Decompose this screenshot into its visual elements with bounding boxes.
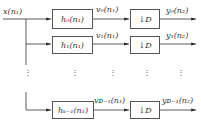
downsampler-1: ↓D	[130, 36, 160, 54]
signal-lines	[0, 0, 201, 134]
y1-label: y₁(n₂)	[166, 32, 188, 40]
y0-label: y₀(n₂)	[166, 7, 188, 15]
ellipsis-bus: ⋮	[24, 71, 28, 74]
downsampler-d: ↓D	[130, 101, 160, 119]
vd-label: vᴅ₋₁(n₁)	[94, 97, 125, 105]
ellipsis-downsamplers: ⋮	[143, 71, 147, 74]
filter-hk-block: hₖ₋₁(n₁)	[52, 101, 94, 119]
v0-label: v₀(n₁)	[96, 6, 118, 14]
filter-h1-block: h₁(n₁)	[52, 36, 93, 54]
downsampler-0: ↓D	[130, 9, 160, 29]
input-label: x(n₁)	[3, 8, 22, 16]
filter-h0-block: h₀(n₁)	[52, 9, 93, 29]
v1-label: v₁(n₁)	[96, 32, 118, 40]
ellipsis-filters: ⋮	[71, 71, 75, 74]
ellipsis-intermediate: ⋮	[109, 71, 113, 74]
yd-label: yᴅ₋₁(n₂)	[162, 97, 193, 105]
ellipsis-outputs: ⋮	[177, 71, 181, 74]
